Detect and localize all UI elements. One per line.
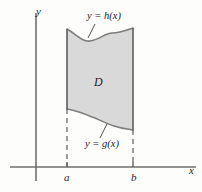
figure-canvas	[0, 0, 202, 192]
lower-curve-label: y = g(x)	[85, 139, 119, 150]
figure-region-between-curves: y x a b y = h(x) y = g(x) D	[0, 0, 202, 192]
leader-line-h	[88, 24, 95, 38]
tick-label-a: a	[64, 172, 70, 183]
x-axis-label: x	[189, 165, 194, 176]
upper-curve-label: y = h(x)	[87, 11, 121, 22]
leader-line-g	[100, 124, 107, 138]
y-axis-label: y	[36, 6, 41, 17]
region-label: D	[94, 76, 103, 88]
tick-label-b: b	[131, 172, 137, 183]
